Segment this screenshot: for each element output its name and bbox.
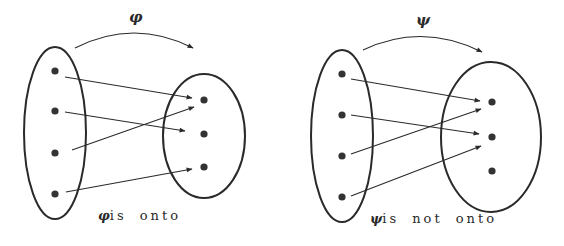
- domain-element-dot: [338, 111, 345, 118]
- caption-text-psi: is not onto: [382, 211, 497, 226]
- domain-element-dot: [338, 152, 345, 159]
- mapping-arrow: [65, 77, 192, 98]
- mapping-arrow: [66, 169, 192, 192]
- codomain-element-dot: [200, 130, 207, 137]
- function-label-psi: ψ: [416, 11, 430, 29]
- domain-element-dot: [51, 107, 58, 114]
- domain-element-dot: [51, 67, 58, 74]
- codomain-element-dot: [488, 98, 495, 105]
- diagram-phi-onto: [24, 33, 245, 219]
- caption-symbol-psi: ψ: [370, 211, 382, 226]
- function-arc-arrow: [363, 36, 482, 52]
- domain-element-dot: [51, 149, 58, 156]
- function-arc-arrow: [75, 33, 193, 48]
- codomain-element-dot: [200, 163, 207, 170]
- caption-symbol-phi: φ: [98, 208, 110, 223]
- mapping-arrow: [351, 115, 479, 134]
- domain-element-dot: [51, 190, 58, 197]
- caption-text-phi: is onto: [110, 208, 181, 223]
- function-label-phi: φ: [129, 8, 143, 26]
- function-mapping-figure: φ φis onto ψ ψis not onto: [0, 0, 564, 246]
- domain-element-dot: [338, 70, 345, 77]
- codomain-element-dot: [488, 133, 495, 140]
- codomain-element-dot: [200, 96, 207, 103]
- mapping-arrow: [65, 112, 185, 131]
- domain-element-dot: [338, 193, 345, 200]
- codomain-element-dot: [488, 167, 495, 174]
- diagram-canvas: [0, 0, 564, 246]
- diagram-psi-not-onto: [311, 36, 541, 222]
- caption-psi-not-onto: ψis not onto: [370, 211, 497, 226]
- mapping-arrow: [72, 107, 194, 150]
- caption-phi-onto: φis onto: [98, 208, 181, 223]
